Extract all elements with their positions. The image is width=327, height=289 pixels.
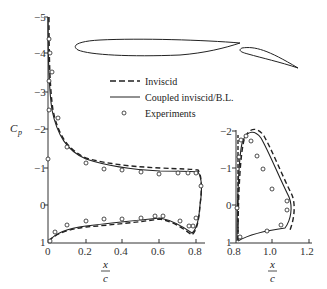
svg-text:0: 0 [226,199,232,211]
legend-inviscid: Inviscid [145,76,177,87]
svg-text:x: x [102,258,108,270]
main-curves [48,17,201,241]
svg-text:−1: −1 [34,162,46,174]
svg-text:0.2: 0.2 [78,245,92,257]
svg-text:−4: −4 [34,47,46,59]
svg-text:−3: −3 [34,86,46,98]
airfoil-sketch [75,39,298,68]
cp-chart: Inviscid Coupled inviscid/B.L. Experimen… [0,0,327,289]
svg-text:c: c [270,272,275,284]
svg-text:0: 0 [45,245,51,257]
svg-text:1.0: 1.0 [263,245,277,257]
flap-experiment-markers [235,134,289,239]
svg-text:0: 0 [40,199,46,211]
main-axes [44,17,205,243]
svg-text:−5: −5 [34,11,46,23]
legend-experiments: Experiments [145,108,196,119]
svg-text:c: c [103,272,108,284]
flap-tick-labels: −2−1 01 0.81.0 1.2 [220,125,314,257]
svg-text:−2: −2 [34,123,46,135]
flap-curves [237,129,294,241]
svg-text:0.8: 0.8 [188,245,202,257]
svg-text:0.8: 0.8 [227,245,241,257]
x-axis-label-flap: x c [268,258,277,284]
legend: Inviscid Coupled inviscid/B.L. Experimen… [110,76,234,119]
y-axis-label: C p [10,122,22,137]
svg-text:−1: −1 [220,162,232,174]
main-experiment-markers [46,37,203,243]
legend-coupled: Coupled inviscid/B.L. [145,92,234,103]
svg-text:C: C [10,122,18,134]
svg-text:0.6: 0.6 [151,245,165,257]
svg-text:−2: −2 [220,125,232,137]
svg-text:1.2: 1.2 [300,245,314,257]
svg-text:p: p [17,128,22,137]
x-axis-label-main: x c [101,258,110,284]
svg-text:0.4: 0.4 [114,245,128,257]
svg-text:x: x [269,258,275,270]
